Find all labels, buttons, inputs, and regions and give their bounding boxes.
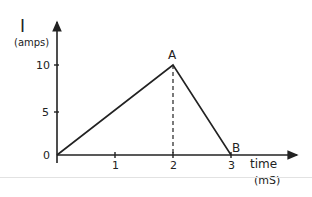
y-tick-label-5: 5 [42,106,49,119]
x-tick-label-2: 2 [170,159,177,172]
x-tick-label-3: 3 [228,159,235,172]
current-time-chart: I (amps) 10 5 0 1 2 3 time (mS) A B [0,0,312,197]
origin-label: 0 [43,149,50,162]
x-tick-label-1: 1 [112,159,119,172]
scan-artifact-line [0,177,312,178]
y-tick-label-10: 10 [36,59,50,72]
x-axis-unit: (mS) [254,174,280,187]
y-axis-unit: (amps) [14,37,49,48]
y-axis-label: I [20,16,25,36]
x-axis-label: time [250,157,277,171]
point-label-b: B [232,141,240,155]
current-waveform [57,65,231,155]
point-label-a: A [168,48,177,62]
